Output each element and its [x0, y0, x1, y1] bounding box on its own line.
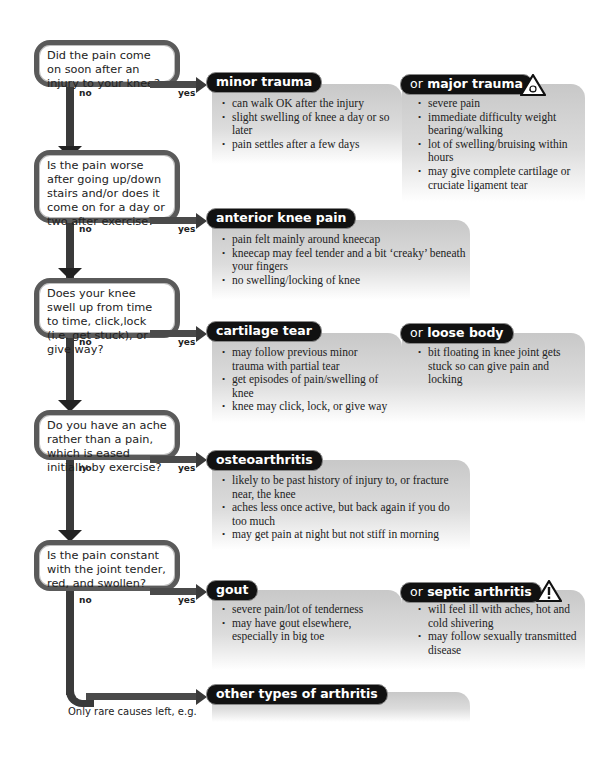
bullet-item: may give complete cartilage or cruciate … [418, 165, 583, 192]
no-label: no [79, 224, 92, 234]
outcome-bullets-major-trauma: severe pain immediate difficulty weight … [418, 97, 583, 192]
question-box-4: Do you have an ache rather than a pain, … [34, 410, 180, 460]
no-label: no [79, 337, 92, 347]
warning-triangle-icon [536, 580, 562, 602]
bullet-item: can walk OK after the injury [222, 97, 392, 111]
bullet-item: pain felt mainly around kneecap [222, 233, 467, 247]
yes-line [150, 330, 198, 337]
bullet-item: severe pain/lot of tenderness [222, 603, 392, 617]
outcome-bullets-cartilage-tear: may follow previous minor trauma with pa… [222, 346, 392, 414]
bullet-item: knee may click, lock, or give way [222, 400, 392, 414]
no-label: no [79, 88, 92, 98]
bullet-item: aches less once active, but back again i… [222, 501, 467, 528]
yes-label: yes [178, 463, 195, 473]
bullet-item: will feel ill with aches, hot and cold s… [418, 603, 586, 630]
yes-label: yes [178, 337, 195, 347]
bullet-item: slight swelling of knee a day or so late… [222, 111, 392, 138]
yes-label: yes [178, 88, 195, 98]
yes-line [150, 217, 198, 224]
outcome-bullets-osteoarthritis: likely to be past history of injury to, … [222, 474, 467, 542]
flow-line [86, 693, 198, 700]
bullet-item: may follow sexually transmitted disease [418, 630, 586, 657]
outcome-title-gout: gout [206, 580, 258, 601]
bullet-item: kneecap may feel tender and a bit ‘creak… [222, 247, 467, 274]
outcome-title-loose-body: or loose body [400, 323, 514, 344]
bullet-item: pain settles after a few days [222, 138, 392, 152]
question-text: Does your knee swell up from time to tim… [47, 287, 152, 356]
bullet-item: may follow previous minor trauma with pa… [222, 346, 392, 373]
bullet-item: likely to be past history of injury to, … [222, 474, 467, 501]
yes-label: yes [178, 595, 195, 605]
outcome-bullets-septic-arthritis: will feel ill with aches, hot and cold s… [418, 603, 586, 657]
flow-line [66, 585, 74, 695]
bullet-item: immediate difficulty weight bearing/walk… [418, 111, 583, 138]
yes-line [150, 81, 198, 88]
outcome-title-minor-trauma: minor trauma [206, 72, 322, 93]
outcome-title-major-trauma: or major trauma [400, 74, 533, 95]
question-box-5: Is the pain constant with the joint tend… [34, 540, 180, 591]
question-box-1: Did the pain come on soon after an injur… [34, 40, 180, 87]
bullet-item: lot of swelling/bruising within hours [418, 138, 583, 165]
outcome-bullets-minor-trauma: can walk OK after the injury slight swel… [222, 97, 392, 151]
question-box-3: Does your knee swell up from time to tim… [34, 278, 180, 338]
no-label: no [79, 463, 92, 473]
bullet-item: severe pain [418, 97, 583, 111]
question-text: Did the pain come on soon after an injur… [47, 49, 160, 90]
bullet-item: no swelling/locking of knee [222, 274, 467, 288]
outcome-bullets-loose-body: bit floating in knee joint gets stuck so… [418, 346, 586, 387]
question-box-2: Is the pain worse after going up/down st… [34, 150, 180, 223]
outcome-title-other-arthritis: other types of arthritis [206, 684, 388, 705]
outcome-title-cartilage-tear: cartilage tear [206, 321, 322, 342]
yes-label: yes [178, 224, 195, 234]
outcome-title-osteoarthritis: osteoarthritis [206, 450, 323, 471]
no-label: no [79, 595, 92, 605]
outcome-title-anterior-knee-pain: anterior knee pain [206, 208, 356, 229]
warning-triangle-icon [520, 74, 546, 96]
outcome-title-septic-arthritis: or septic arthritis [400, 582, 542, 603]
question-text: Do you have an ache rather than a pain, … [47, 419, 167, 474]
bullet-item: may have gout elsewhere, especially in b… [222, 617, 392, 644]
bullet-item: may get pain at night but not stiff in m… [222, 528, 467, 542]
question-text: Is the pain worse after going up/down st… [47, 159, 165, 228]
yes-line [150, 588, 198, 595]
bullet-item: get episodes of pain/swelling of knee [222, 373, 392, 400]
bullet-item: bit floating in knee joint gets stuck so… [418, 346, 586, 387]
footnote-rare-causes: Only rare causes left, e.g. [68, 706, 197, 717]
question-text: Is the pain constant with the joint tend… [47, 549, 166, 590]
yes-line [150, 456, 198, 463]
outcome-bullets-anterior-knee-pain: pain felt mainly around kneecap kneecap … [222, 233, 467, 287]
outcome-bullets-gout: severe pain/lot of tenderness may have g… [222, 603, 392, 644]
